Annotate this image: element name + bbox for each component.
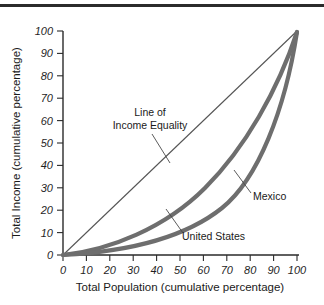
y-tick-label-0: 0 bbox=[47, 249, 54, 261]
x-tick-label-0: 0 bbox=[60, 264, 67, 276]
equality-leader-line bbox=[152, 134, 170, 163]
united-states-label: United States bbox=[182, 230, 245, 242]
x-tick-label-100: 100 bbox=[288, 264, 307, 276]
y-tick-label-20: 20 bbox=[40, 204, 54, 216]
equality-label-line2: Income Equality bbox=[113, 119, 188, 131]
y-tick-label-50: 50 bbox=[41, 137, 54, 149]
y-tick-label-40: 40 bbox=[41, 159, 54, 171]
x-tick-labels: 0 10 20 30 40 50 60 70 80 90 100 bbox=[60, 264, 307, 276]
y-tick-labels: 0 10 20 30 40 50 60 70 80 90 100 bbox=[35, 25, 54, 261]
x-tick-label-40: 40 bbox=[150, 264, 163, 276]
y-tick-marks bbox=[57, 31, 63, 255]
x-tick-label-30: 30 bbox=[127, 264, 140, 276]
x-tick-label-90: 90 bbox=[267, 264, 280, 276]
y-tick-label-100: 100 bbox=[35, 25, 54, 37]
mexico-label: Mexico bbox=[253, 190, 286, 202]
chart-canvas: 0 10 20 30 40 50 60 70 80 90 100 bbox=[0, 0, 324, 305]
y-axis-title: Total Income (cumulative percentage) bbox=[10, 47, 22, 239]
x-tick-label-20: 20 bbox=[103, 264, 117, 276]
lorenz-curve-figure: 0 10 20 30 40 50 60 70 80 90 100 bbox=[0, 0, 324, 305]
equality-line bbox=[63, 31, 297, 255]
x-axis-title: Total Population (cumulative percentage) bbox=[76, 281, 285, 293]
annotation-united-states: United States bbox=[166, 209, 245, 242]
x-tick-label-80: 80 bbox=[244, 264, 257, 276]
x-tick-label-10: 10 bbox=[80, 264, 93, 276]
y-tick-label-10: 10 bbox=[41, 227, 54, 239]
y-tick-label-70: 70 bbox=[41, 92, 54, 104]
x-tick-label-60: 60 bbox=[197, 264, 210, 276]
y-tick-label-30: 30 bbox=[41, 182, 54, 194]
x-tick-label-70: 70 bbox=[221, 264, 234, 276]
annotation-equality: Line of Income Equality bbox=[113, 106, 188, 163]
x-tick-label-50: 50 bbox=[174, 264, 187, 276]
x-tick-marks bbox=[63, 255, 297, 261]
y-tick-label-90: 90 bbox=[41, 47, 54, 59]
y-tick-label-80: 80 bbox=[41, 70, 54, 82]
equality-label-line1: Line of bbox=[134, 106, 166, 118]
y-tick-label-60: 60 bbox=[41, 115, 54, 127]
